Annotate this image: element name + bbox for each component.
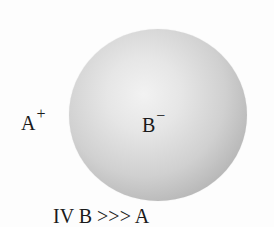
cation-charge: + [36, 105, 45, 122]
cation-symbol: A [21, 112, 35, 134]
cation-label: A+ [21, 109, 45, 133]
diagram-caption: IV B >>> A [53, 206, 149, 226]
ion-size-diagram: A+ B− IV B >>> A [0, 0, 274, 227]
anion-charge: − [156, 107, 165, 124]
anion-label: B− [142, 111, 165, 135]
anion-symbol: B [142, 114, 155, 136]
